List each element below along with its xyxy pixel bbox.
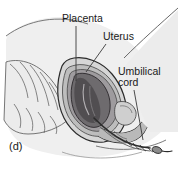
cord-distal-end xyxy=(162,151,172,152)
label-placenta: Placenta xyxy=(62,13,103,24)
panel-label: (d) xyxy=(9,141,22,152)
label-umbilical-cord: Umbilical cord xyxy=(118,66,161,88)
label-umbilical-cord-line2: cord xyxy=(118,77,161,88)
label-uterus: Uterus xyxy=(103,31,134,42)
figure-panel-d: Placenta Uterus Umbilical cord (d) xyxy=(0,0,178,170)
